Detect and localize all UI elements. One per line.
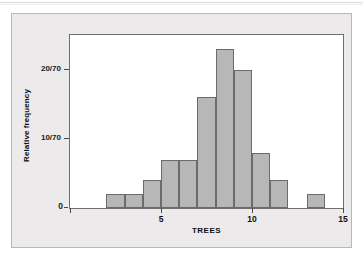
x-tick-mark-15 <box>343 208 344 213</box>
x-tick-label-10: 10 <box>237 214 267 224</box>
histogram-bar <box>252 153 270 208</box>
histogram-bar <box>307 194 325 208</box>
y-tick-label-20-70: 20/70 <box>27 64 61 73</box>
histogram-bar <box>216 49 234 208</box>
x-tick-label-15: 15 <box>328 214 358 224</box>
page-rule-top <box>0 2 363 3</box>
plot-area <box>70 35 343 208</box>
histogram-bar <box>143 180 161 208</box>
histogram-bar <box>125 194 143 208</box>
y-axis-title: Relative frequency <box>22 89 31 162</box>
histogram-figure: Relative frequency 20/70 10/70 0 5 10 15… <box>0 0 363 258</box>
histogram-bar <box>161 160 179 208</box>
x-tick-mark-10 <box>252 208 253 213</box>
x-axis-title: TREES <box>69 226 344 235</box>
y-tick-label-10-70: 10/70 <box>27 133 61 142</box>
histogram-bar <box>179 160 197 208</box>
x-tick-mark-5 <box>161 208 162 213</box>
histogram-bar <box>197 97 215 208</box>
histogram-bar <box>270 180 288 208</box>
x-tick-label-5: 5 <box>146 214 176 224</box>
plot-frame <box>69 34 344 209</box>
x-tick-mark-0 <box>70 208 71 213</box>
histogram-bar <box>106 194 124 208</box>
page-rule-top-secondary <box>0 4 363 5</box>
y-tick-label-0: 0 <box>49 202 63 211</box>
y-tick-mark-0 <box>64 207 68 208</box>
histogram-bar <box>234 70 252 208</box>
figure-panel: Relative frequency 20/70 10/70 0 5 10 15… <box>11 13 352 248</box>
